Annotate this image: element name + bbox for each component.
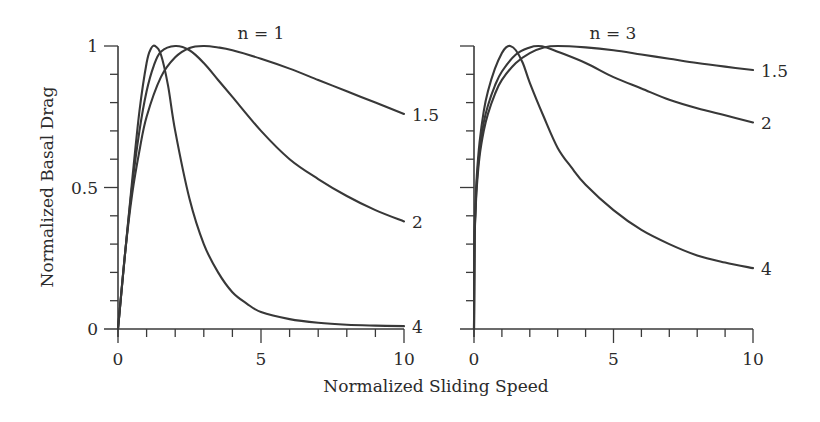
curve-exponent-1-5 — [474, 46, 753, 329]
curve-exponent-4 — [118, 46, 404, 329]
x-tick-label: 5 — [608, 349, 619, 369]
panel-n3: n = 3 05101.524 — [460, 23, 788, 369]
curve-label: 4 — [761, 259, 772, 279]
y-axis-title: Normalized Basal Drag — [37, 87, 57, 288]
x-tick-label: 0 — [113, 349, 124, 369]
x-tick-label: 10 — [393, 349, 415, 369]
panel-title: n = 3 — [590, 23, 637, 43]
curve-exponent-2 — [118, 46, 404, 329]
y-tick-label: 0.5 — [71, 178, 98, 198]
curve-label: 2 — [761, 113, 772, 133]
curve-exponent-1-5 — [118, 46, 404, 329]
panel-title: n = 1 — [238, 23, 285, 43]
x-tick-label: 5 — [256, 349, 267, 369]
panel-n1: n = 1 051000.511.524 — [71, 23, 439, 369]
y-tick-label: 0 — [87, 319, 98, 339]
chart-svg: Normalized Basal Drag Normalized Sliding… — [0, 0, 820, 422]
x-tick-label: 0 — [469, 349, 480, 369]
curve-label: 4 — [412, 317, 423, 337]
x-axis-title: Normalized Sliding Speed — [323, 376, 548, 396]
curve-label: 2 — [412, 212, 423, 232]
curve-exponent-4 — [474, 46, 753, 329]
figure: Normalized Basal Drag Normalized Sliding… — [0, 0, 820, 422]
curve-label: 1.5 — [412, 105, 439, 125]
curve-exponent-2 — [474, 46, 753, 329]
y-tick-label: 1 — [87, 36, 98, 56]
x-tick-label: 10 — [742, 349, 764, 369]
curve-label: 1.5 — [761, 61, 788, 81]
